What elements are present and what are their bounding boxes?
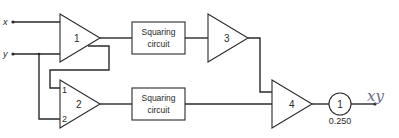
svg-text:circuit: circuit: [147, 39, 170, 49]
squaring-circuit-1: Squaring circuit: [132, 22, 185, 54]
svg-text:1: 1: [74, 33, 80, 44]
amplifier-1: 1: [60, 14, 100, 62]
svg-text:1: 1: [337, 99, 343, 110]
amplifier-4: 4: [272, 80, 312, 128]
potentiometer: 1 0.250: [329, 93, 352, 126]
squaring-circuit-2: Squaring circuit: [132, 88, 185, 120]
svg-text:2: 2: [76, 99, 82, 110]
svg-text:Squaring: Squaring: [141, 93, 175, 103]
potentiometer-value: 0.250: [329, 116, 352, 126]
input-x-label: x: [2, 17, 8, 27]
amplifier-2: 2 1 2: [60, 80, 100, 128]
analog-multiplier-diagram: x y 1 2 1 2 Squaring circuit Squaring ci…: [0, 0, 399, 138]
svg-text:4: 4: [289, 99, 295, 110]
svg-text:3: 3: [224, 33, 230, 44]
svg-text:Squaring: Squaring: [141, 27, 175, 37]
output-label: xy: [367, 87, 384, 105]
svg-text:circuit: circuit: [147, 105, 170, 115]
amp2-input-1-label: 1: [62, 85, 67, 95]
amp2-input-2-label: 2: [62, 114, 67, 124]
amplifier-3: 3: [208, 14, 248, 62]
input-y-label: y: [2, 49, 8, 59]
